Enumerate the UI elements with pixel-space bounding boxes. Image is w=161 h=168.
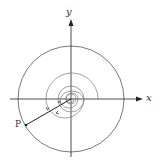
y-axis-label: y xyxy=(66,7,72,17)
segment-OP xyxy=(26,99,71,125)
point-P xyxy=(25,124,28,127)
x-axis-label: x xyxy=(146,93,152,103)
x-axis-arrow-icon xyxy=(136,97,143,102)
diagram-canvas xyxy=(0,0,161,168)
y-axis-arrow-icon xyxy=(69,19,74,26)
spiral-arrow-icon xyxy=(46,107,49,110)
point-P-label: P xyxy=(15,120,21,129)
spiral xyxy=(46,73,98,118)
spiral-arrow-icon xyxy=(56,111,59,114)
